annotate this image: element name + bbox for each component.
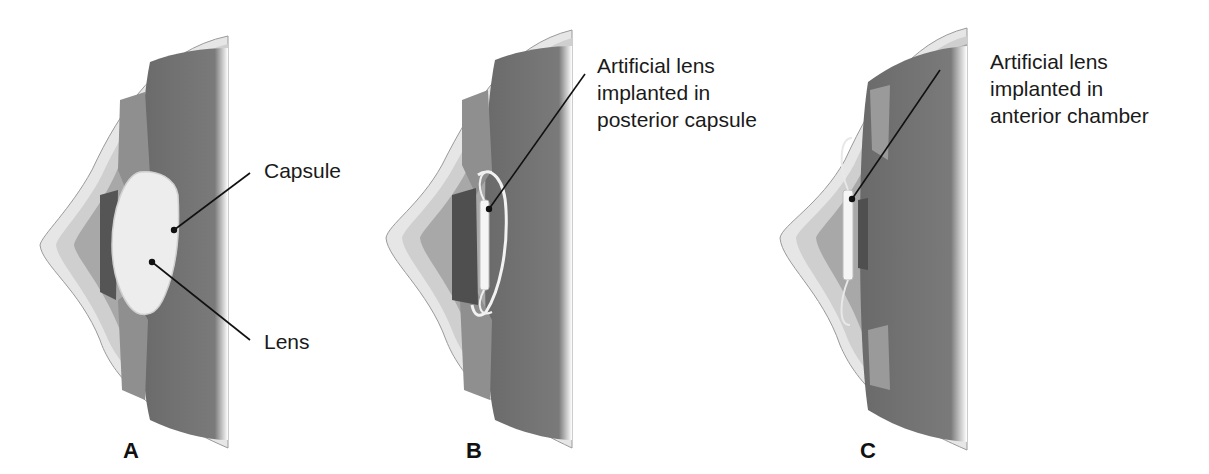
eye-cross-section-natural-lens bbox=[0, 0, 400, 474]
panel-b: Artificial lens implanted in posterior c… bbox=[380, 0, 800, 474]
panel-letter-c: C bbox=[860, 438, 876, 464]
panel-c: Artificial lens implanted in anterior ch… bbox=[760, 0, 1209, 474]
label-lens: Lens bbox=[264, 328, 310, 355]
label-anterior-chamber-iol: Artificial lens implanted in anterior ch… bbox=[990, 48, 1149, 129]
panel-a: Capsule Lens A bbox=[0, 0, 400, 474]
label-posterior-capsule-iol: Artificial lens implanted in posterior c… bbox=[597, 52, 757, 133]
label-capsule: Capsule bbox=[264, 157, 341, 184]
panel-letter-b: B bbox=[466, 438, 482, 464]
panel-letter-a: A bbox=[123, 438, 139, 464]
